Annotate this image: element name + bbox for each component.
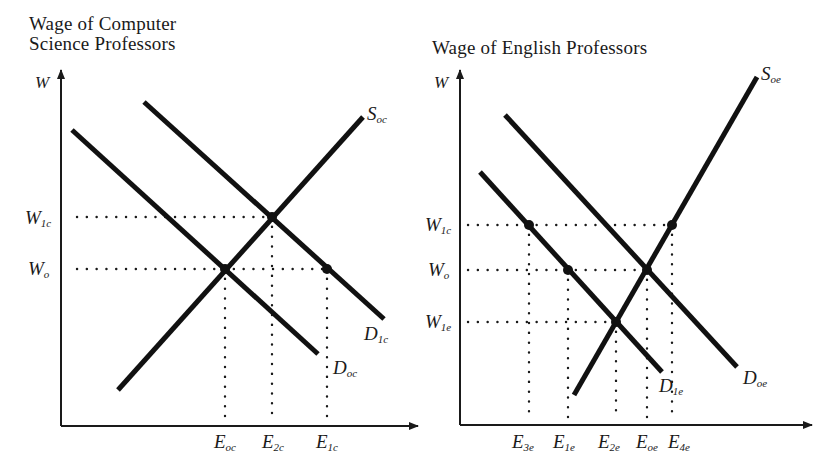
right-wage-label-w1e: W1e bbox=[425, 311, 451, 333]
labor-market-diagrams: W W1c Wo Soc D1c Doc Eoc E2c E1c bbox=[0, 0, 831, 463]
right-point-demand-at-wo bbox=[563, 265, 573, 275]
right-point-demand-at-w1c bbox=[524, 220, 534, 230]
left-y-axis-label: W bbox=[35, 73, 51, 92]
left-supply-label: Soc bbox=[367, 103, 387, 125]
left-wage-label-wo: Wo bbox=[28, 258, 50, 280]
left-demand-new-label: D1c bbox=[363, 323, 388, 345]
right-y-axis-label: W bbox=[434, 73, 450, 92]
left-point-demand-at-wo bbox=[322, 264, 332, 274]
right-point-supply-at-w1c bbox=[667, 220, 677, 230]
right-demand-original-label: Doe bbox=[742, 367, 767, 389]
right-employment-label-e1e: E1e bbox=[552, 431, 575, 453]
left-supply-curve bbox=[118, 117, 363, 390]
left-demand-original-label: Doc bbox=[332, 357, 357, 379]
left-employment-label-e2c: E2c bbox=[261, 431, 284, 453]
left-employment-label-e1c: E1c bbox=[315, 431, 338, 453]
right-employment-label-e4e: E4e bbox=[667, 431, 690, 453]
right-wage-label-wo: Wo bbox=[428, 259, 450, 281]
left-employment-label-eoc: Eoc bbox=[213, 431, 236, 453]
right-employment-label-eoe: Eoe bbox=[635, 431, 658, 453]
left-wage-label-w1c: W1c bbox=[25, 207, 51, 229]
right-employment-label-e2e: E2e bbox=[597, 431, 620, 453]
right-wage-label-w1c: W1c bbox=[425, 214, 451, 236]
right-supply-label: Soe bbox=[761, 63, 781, 85]
right-demand-new-label: D1e bbox=[658, 375, 683, 397]
right-point-original-equilibrium bbox=[642, 265, 652, 275]
left-demand-original-curve bbox=[72, 130, 318, 354]
left-chart: W W1c Wo Soc D1c Doc Eoc E2c E1c bbox=[25, 70, 418, 453]
right-chart: W W1c Wo W1e Soe D1e Doe E3e bbox=[425, 63, 812, 453]
right-supply-curve bbox=[574, 77, 757, 395]
right-employment-label-e3e: E3e bbox=[511, 431, 534, 453]
right-point-new-equilibrium bbox=[611, 317, 621, 327]
right-guide-lines bbox=[468, 225, 672, 419]
left-point-new-equilibrium bbox=[267, 212, 277, 222]
left-point-original-equilibrium bbox=[220, 264, 230, 274]
